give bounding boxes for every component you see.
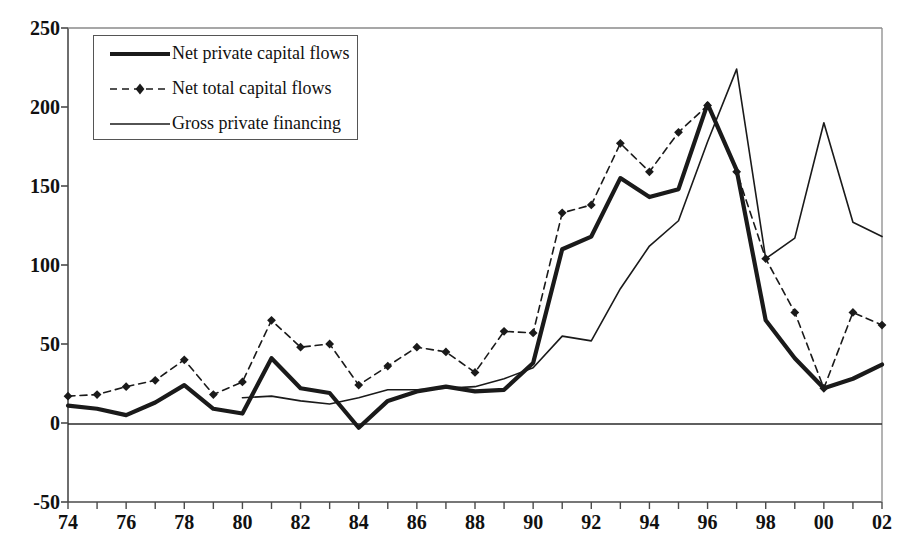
- series-line: [68, 104, 882, 428]
- x-tick-label: 74: [46, 512, 90, 532]
- data-point-marker: [790, 308, 799, 317]
- data-point-marker: [878, 321, 887, 330]
- data-point-marker: [587, 201, 596, 210]
- y-tick-label: 100: [8, 255, 60, 275]
- legend-label: Gross private financing: [172, 113, 341, 134]
- x-tick-label: 94: [627, 512, 671, 532]
- x-tick-label: 00: [802, 512, 846, 532]
- y-tick-label: -50: [8, 492, 60, 512]
- data-point-marker: [267, 316, 276, 325]
- thick-line-swatch: [108, 45, 172, 63]
- data-point-marker: [93, 390, 102, 399]
- x-tick-label: 96: [686, 512, 730, 532]
- legend-item-gross-private-financing: Gross private financing: [94, 106, 357, 141]
- data-point-marker: [64, 392, 73, 401]
- y-tick-label: 250: [8, 18, 60, 38]
- dashed-diamond-swatch: [108, 80, 172, 98]
- x-tick-label: 90: [511, 512, 555, 532]
- x-tick-label: 88: [453, 512, 497, 532]
- x-tick-label: 92: [569, 512, 613, 532]
- y-tick-label: 50: [8, 334, 60, 354]
- series-net-private-capital-flows: [68, 104, 882, 428]
- data-point-marker: [122, 382, 131, 391]
- x-tick-label: 98: [744, 512, 788, 532]
- data-point-marker: [209, 390, 218, 399]
- x-tick-label: 82: [279, 512, 323, 532]
- y-tick-marks: [61, 28, 68, 502]
- data-point-marker: [238, 378, 247, 387]
- x-tick-label: 78: [162, 512, 206, 532]
- data-point-marker: [151, 376, 160, 385]
- x-tick-label: 02: [860, 512, 904, 532]
- y-tick-label: 150: [8, 176, 60, 196]
- x-tick-label: 76: [104, 512, 148, 532]
- chart-legend: Net private capital flows Net total capi…: [93, 35, 358, 140]
- series-line: [68, 105, 882, 396]
- y-tick-label: 0: [8, 413, 60, 433]
- data-point-marker: [383, 362, 392, 371]
- legend-label: Net total capital flows: [172, 78, 331, 99]
- data-point-marker: [412, 343, 421, 352]
- legend-item-net-total-capital-flows: Net total capital flows: [94, 71, 357, 106]
- x-tick-label: 84: [337, 512, 381, 532]
- data-point-marker: [558, 208, 567, 217]
- y-tick-label: 200: [8, 97, 60, 117]
- series-net-total-capital-flows: [64, 101, 887, 401]
- data-point-marker: [529, 329, 538, 338]
- chart-container: 250200150100500-50 747678808284868890929…: [0, 0, 906, 542]
- thin-line-swatch: [108, 115, 172, 133]
- x-tick-label: 80: [220, 512, 264, 532]
- data-point-marker: [849, 308, 858, 317]
- legend-label: Net private capital flows: [172, 43, 349, 64]
- x-tick-label: 86: [395, 512, 439, 532]
- x-tick-marks: [68, 502, 882, 509]
- legend-item-net-private-capital-flows: Net private capital flows: [94, 36, 357, 71]
